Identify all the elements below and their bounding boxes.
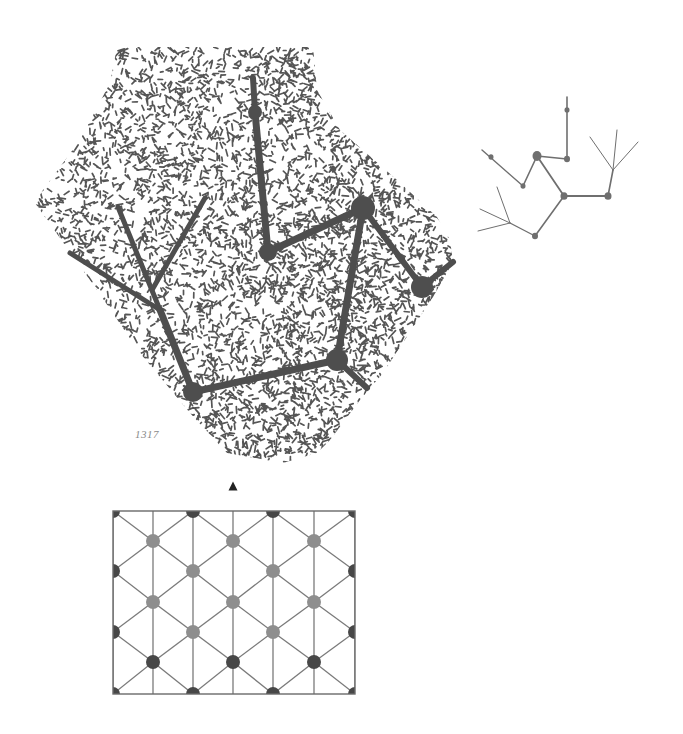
small-branching-tree [478,97,638,239]
tree-branch [510,223,535,236]
tree-branch [523,156,537,186]
tree-node [564,156,570,163]
stippled-region [32,44,455,465]
lattice-node-light [266,564,280,578]
lattice-node-light [307,534,321,548]
lattice-node-light [226,534,240,548]
tree-node [533,151,542,161]
tree-node [521,183,526,189]
tree-branch [613,130,617,170]
tree-branch [537,156,567,159]
tree-branch [535,196,564,236]
tree-node [259,243,277,261]
tree-node [561,192,568,200]
tree-branch [152,198,205,290]
lattice-node-light [186,625,200,639]
tree-node [565,107,570,113]
tree-branch [478,223,510,231]
tree-branch [608,170,613,196]
tree-node [605,192,612,200]
lattice-node-light [226,595,240,609]
tree-node [248,105,262,119]
figure-canvas [0,0,683,734]
triangle-marker-icon [229,482,238,491]
lattice-node-dark [307,655,321,669]
tree-node [489,154,494,160]
tree-branch [613,142,638,170]
tree-node [183,382,203,402]
lattice-node-dark [226,655,240,669]
tree-node [326,349,348,371]
lattice-node-light [146,595,160,609]
triangular-lattice-diagram [106,504,362,701]
tree-branch [590,137,613,170]
lattice-node-light [266,625,280,639]
tree-branch [482,150,523,186]
figure-number-label: 1317 [135,428,159,440]
lattice-node-dark [146,655,160,669]
lattice-node-light [186,564,200,578]
tree-node [532,233,538,240]
tree-branch [537,156,564,196]
lattice-node-light [307,595,321,609]
tree-node [411,276,433,298]
tree-node [351,196,375,220]
lattice-node-light [146,534,160,548]
